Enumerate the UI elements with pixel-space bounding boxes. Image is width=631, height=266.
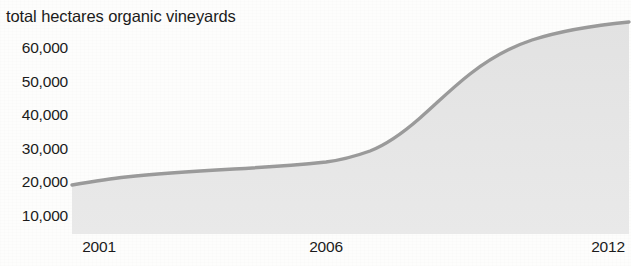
y-axis-tick-20000: 20,000 xyxy=(2,174,68,190)
y-axis-tick-30000: 30,000 xyxy=(2,141,68,157)
x-axis-tick-2001: 2001 xyxy=(82,238,116,256)
area-fill xyxy=(72,22,629,234)
x-axis-tick-2012: 2012 xyxy=(591,238,625,256)
area-chart-svg xyxy=(70,12,631,234)
y-axis: 60,000 50,000 40,000 30,000 20,000 10,00… xyxy=(0,0,68,266)
chart-page: total hectares organic vineyards 60,000 … xyxy=(0,0,631,266)
y-axis-tick-10000: 10,000 xyxy=(2,208,68,224)
y-axis-tick-60000: 60,000 xyxy=(2,40,68,56)
y-axis-tick-50000: 50,000 xyxy=(2,74,68,90)
x-axis-tick-2006: 2006 xyxy=(309,238,343,256)
x-axis: 2001 2006 2012 xyxy=(0,238,631,266)
plot-area xyxy=(70,12,631,234)
y-axis-tick-40000: 40,000 xyxy=(2,107,68,123)
